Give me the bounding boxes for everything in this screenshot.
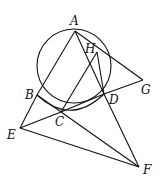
segment-cd — [61, 94, 104, 112]
label-point-c: C — [55, 115, 64, 129]
label-point-g: G — [141, 83, 151, 97]
segment-dg — [104, 80, 143, 94]
segments — [20, 31, 143, 167]
label-point-h: H — [84, 42, 96, 56]
segment-ad — [75, 31, 104, 94]
label-point-b: B — [24, 88, 34, 102]
segment-ab — [37, 31, 75, 95]
circumcircle — [37, 29, 111, 103]
label-point-d: D — [108, 93, 119, 107]
geometry-diagram: AHBCDGEF — [0, 0, 162, 188]
label-point-f: F — [142, 163, 152, 177]
label-point-e: E — [6, 128, 16, 142]
label-point-a: A — [69, 14, 79, 28]
segment-ef — [20, 128, 139, 167]
